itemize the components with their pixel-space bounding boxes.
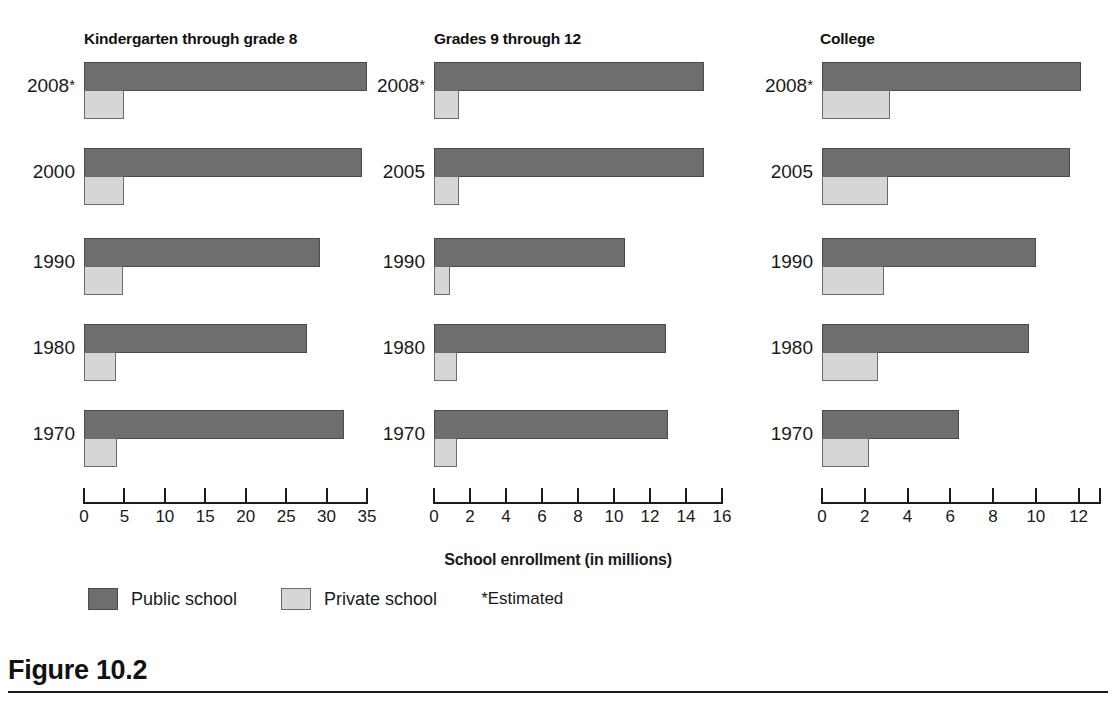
axis-tick-label: 15 xyxy=(196,507,215,527)
axis-tick xyxy=(245,488,247,504)
bar-private xyxy=(84,176,124,205)
axis-tick-label: 20 xyxy=(236,507,255,527)
year-label: 1990 xyxy=(383,251,425,273)
axis-tick-label: 14 xyxy=(677,507,696,527)
x-axis-grades-9-12: 0246810121416 xyxy=(434,488,722,528)
legend-estimated-note: *Estimated xyxy=(481,589,563,609)
bar-private xyxy=(84,90,124,119)
figure-container: Kindergarten through grade 8 Grades 9 th… xyxy=(0,0,1116,718)
year-label: 2008* xyxy=(27,75,75,97)
public-swatch-icon xyxy=(88,588,118,610)
bar-group-grades-9-12-2008: 2008* xyxy=(434,62,722,124)
axis-tick-label: 2 xyxy=(860,507,869,527)
bar-private xyxy=(822,176,888,205)
axis-tick-label: 10 xyxy=(605,507,624,527)
axis-tick xyxy=(285,488,287,504)
year-label: 2008* xyxy=(377,75,425,97)
bar-group-college-2005: 2005 xyxy=(822,148,1100,210)
legend-label-public: Public school xyxy=(131,589,237,610)
bar-group-grades-9-12-1990: 1990 xyxy=(434,238,722,300)
axis-tick xyxy=(469,488,471,504)
figure-caption-block: Figure 10.2 xyxy=(8,655,1108,693)
axis-tick xyxy=(433,488,435,504)
bar-public xyxy=(84,238,320,267)
axis-tick-label: 10 xyxy=(155,507,174,527)
axis-tick-label: 0 xyxy=(429,507,438,527)
axis-tick xyxy=(649,488,651,504)
axis-tick-label: 10 xyxy=(1026,507,1045,527)
bar-group-college-1990: 1990 xyxy=(822,238,1100,300)
bar-public xyxy=(84,410,344,439)
legend-label-private: Private school xyxy=(324,589,437,610)
axis-tick xyxy=(541,488,543,504)
bar-public xyxy=(822,62,1081,91)
axis-tick-label: 8 xyxy=(573,507,582,527)
axis-tick xyxy=(204,488,206,504)
bar-group-college-1980: 1980 xyxy=(822,324,1100,386)
bar-group-kindergarten-2008: 2008* xyxy=(84,62,367,124)
axis-tick-label: 6 xyxy=(946,507,955,527)
x-axis-college: 024681012 xyxy=(822,488,1100,528)
axis-tick-label: 12 xyxy=(641,507,660,527)
bar-private xyxy=(84,352,116,381)
axis-tick-label: 4 xyxy=(501,507,510,527)
axis-tick-label: 2 xyxy=(465,507,474,527)
year-label: 2000 xyxy=(33,161,75,183)
axis-tick xyxy=(366,488,368,504)
year-label: 1980 xyxy=(383,337,425,359)
bar-group-kindergarten-1970: 1970 xyxy=(84,410,367,472)
axis-tick-label: 25 xyxy=(277,507,296,527)
axis-tick-label: 8 xyxy=(988,507,997,527)
caption-divider xyxy=(8,691,1108,693)
axis-tick xyxy=(864,488,866,504)
bar-private xyxy=(84,438,117,467)
bar-private xyxy=(434,438,457,467)
bar-public xyxy=(84,62,367,91)
bar-private xyxy=(434,90,459,119)
private-swatch-icon xyxy=(281,588,311,610)
axis-tick-label: 35 xyxy=(358,507,377,527)
bar-public xyxy=(434,148,704,177)
axis-tick-label: 4 xyxy=(903,507,912,527)
bar-private xyxy=(822,352,878,381)
panel-title-grades-9-12: Grades 9 through 12 xyxy=(434,30,581,48)
bar-private xyxy=(822,438,869,467)
year-label: 1990 xyxy=(33,251,75,273)
axis-tick xyxy=(83,488,85,504)
year-label: 1970 xyxy=(771,423,813,445)
axis-tick xyxy=(123,488,125,504)
bar-private xyxy=(434,352,457,381)
year-label: 1980 xyxy=(771,337,813,359)
chart-panel-college: 2008*2005199019801970 xyxy=(822,62,1100,482)
year-label: 2005 xyxy=(383,161,425,183)
axis-tick xyxy=(326,488,328,504)
bar-public xyxy=(822,148,1070,177)
year-label: 1990 xyxy=(771,251,813,273)
bar-private xyxy=(434,266,450,295)
bar-group-kindergarten-2000: 2000 xyxy=(84,148,367,210)
bar-private xyxy=(84,266,123,295)
axis-tick-label: 16 xyxy=(713,507,732,527)
axis-tick-label: 0 xyxy=(79,507,88,527)
bar-group-kindergarten-1980: 1980 xyxy=(84,324,367,386)
year-label: 1980 xyxy=(33,337,75,359)
chart-panel-grades-9-12: 2008*2005199019801970 xyxy=(434,62,722,482)
axis-baseline xyxy=(84,502,367,504)
bar-public xyxy=(822,324,1029,353)
bar-group-kindergarten-1990: 1990 xyxy=(84,238,367,300)
bar-public xyxy=(434,238,625,267)
axis-tick-label: 6 xyxy=(537,507,546,527)
axis-tick-label: 12 xyxy=(1069,507,1088,527)
bar-public xyxy=(84,148,362,177)
axis-tick xyxy=(949,488,951,504)
bar-public xyxy=(434,410,668,439)
bar-public xyxy=(434,324,666,353)
year-label: 2005 xyxy=(771,161,813,183)
axis-tick-label: 5 xyxy=(120,507,129,527)
axis-tick xyxy=(721,488,723,504)
x-axis-kindergarten: 05101520253035 xyxy=(84,488,367,528)
bar-public xyxy=(822,238,1036,267)
bar-group-grades-9-12-1970: 1970 xyxy=(434,410,722,472)
axis-tick-label: 0 xyxy=(817,507,826,527)
chart-legend: Public school Private school *Estimated xyxy=(88,588,563,610)
